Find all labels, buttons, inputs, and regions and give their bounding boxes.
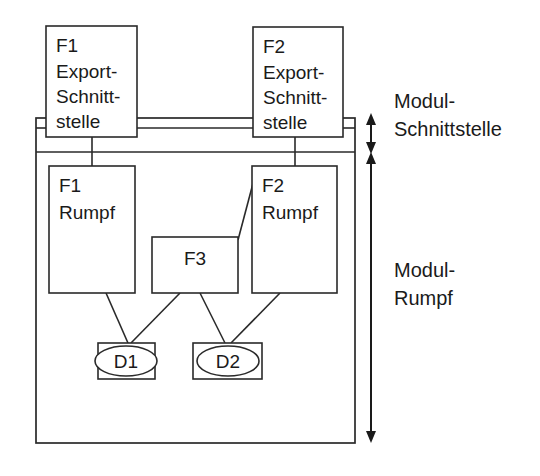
modul-rumpf-label: Modul- Rumpf: [394, 259, 455, 309]
modul-schnittstelle-label-line-2: Schnittstelle: [394, 118, 502, 140]
node-f2-export-line-1: Export-: [263, 62, 324, 83]
modul-rumpf-dimension-arrow: [366, 152, 376, 443]
module-structure-diagram: F1 Export- Schnitt- stelle F2 Export- Sc…: [0, 0, 540, 476]
link-f2-rumpf-to-d2: [231, 293, 280, 343]
node-f2-export[interactable]: F2 Export- Schnitt- stelle: [253, 27, 343, 137]
link-f3-to-d2: [200, 293, 225, 343]
node-d2[interactable]: D2: [193, 343, 262, 379]
node-f2-rumpf-line-1: Rumpf: [262, 202, 319, 223]
node-f2-export-line-2: Schnitt-: [263, 87, 327, 108]
node-f1-export-line-2: Schnitt-: [56, 86, 120, 107]
node-f1-rumpf-line-1: Rumpf: [59, 202, 116, 223]
node-f2-rumpf-line-0: F2: [262, 175, 284, 196]
node-f1-export-line-1: Export-: [56, 61, 117, 82]
node-f1-export-line-0: F1: [56, 35, 78, 56]
node-d1[interactable]: D1: [95, 343, 157, 379]
node-f1-rumpf-line-0: F1: [59, 175, 81, 196]
node-d1-label: D1: [114, 351, 138, 372]
modul-rumpf-label-line-2: Rumpf: [394, 287, 453, 309]
node-f3-label: F3: [184, 248, 206, 269]
modul-schnittstelle-label: Modul- Schnittstelle: [394, 90, 502, 140]
node-f2-export-line-0: F2: [263, 36, 285, 57]
link-f1-rumpf-to-d1: [106, 293, 128, 343]
node-f3[interactable]: F3: [152, 237, 238, 293]
link-f3-to-d1: [131, 293, 180, 343]
modul-rumpf-label-line-1: Modul-: [394, 259, 455, 281]
modul-schnittstelle-arrow-head-top: [366, 113, 376, 125]
modul-schnittstelle-label-line-1: Modul-: [394, 90, 455, 112]
node-f1-rumpf[interactable]: F1 Rumpf: [49, 166, 135, 293]
modul-rumpf-arrow-head-bottom: [366, 431, 376, 443]
diagram-canvas: F1 Export- Schnitt- stelle F2 Export- Sc…: [0, 0, 540, 476]
node-f2-export-line-3: stelle: [263, 112, 307, 133]
node-d2-label: D2: [216, 351, 240, 372]
node-f1-export-line-3: stelle: [56, 111, 100, 132]
node-f2-rumpf[interactable]: F2 Rumpf: [252, 166, 337, 293]
node-f1-export[interactable]: F1 Export- Schnitt- stelle: [46, 26, 137, 137]
modul-rumpf-arrow-head-top: [366, 152, 376, 164]
modul-schnittstelle-dimension-arrow: [366, 113, 376, 154]
